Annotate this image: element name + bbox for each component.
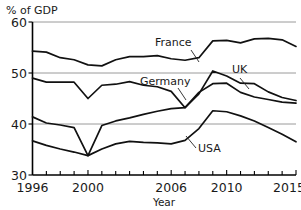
y-tick-label-40: 40: [11, 117, 27, 132]
series-label-germany: Germany: [140, 75, 191, 88]
series-label-usa: USA: [198, 142, 221, 155]
x-tick-label-2010: 2010: [211, 180, 243, 195]
chart-background: [0, 0, 301, 210]
series-label-uk: UK: [232, 63, 248, 76]
x-tick-label-2000: 2000: [72, 180, 104, 195]
x-tick-label-2006: 2006: [155, 180, 187, 195]
y-tick-label-60: 60: [11, 15, 27, 30]
series-label-france: France: [155, 36, 192, 49]
x-axis-label: Year: [152, 196, 176, 208]
line-chart: % of GDP 30 40 50 60 1996 2000 2006 2010…: [0, 0, 301, 210]
chart-container: % of GDP 30 40 50 60 1996 2000 2006 2010…: [0, 0, 301, 210]
y-tick-label-50: 50: [11, 66, 27, 81]
x-tick-label-2015: 2015: [273, 180, 301, 195]
x-tick-label-1996: 1996: [17, 180, 49, 195]
